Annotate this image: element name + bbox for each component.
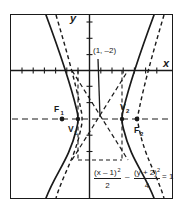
equation-numerator-2-base: (y + 2) — [134, 168, 157, 177]
y-axis-label: y — [69, 12, 77, 24]
focus-2-letter: F — [134, 125, 139, 135]
focus-1-dot — [60, 117, 65, 122]
center-coordinate-label: (1, –2) — [93, 46, 116, 55]
equation-numerator-1-exponent: 2 — [118, 167, 121, 173]
equation-equals-value: = 1 — [162, 172, 174, 181]
equation-denominator-1: 2 — [105, 181, 110, 190]
equation-operator: – — [125, 172, 130, 181]
equation-numerator-1-base: (x – 1) — [94, 168, 117, 177]
equation-denominator-2: 4 — [145, 181, 150, 190]
x-axis-label: x — [162, 57, 170, 69]
hyperbola-figure: y x (1, –2) F 1 V 1 V 2 F 2 (x – 1) 2 — [0, 0, 182, 209]
graph-canvas: y x (1, –2) F 1 V 1 V 2 F 2 (x – 1) 2 — [0, 0, 182, 209]
vertex-1-dot — [76, 117, 80, 121]
equation-numerator-2-exponent: 2 — [157, 167, 160, 173]
vertex-2-dot — [120, 117, 124, 121]
focus-2-dot — [135, 117, 140, 122]
focus-1-letter: F — [54, 104, 59, 114]
